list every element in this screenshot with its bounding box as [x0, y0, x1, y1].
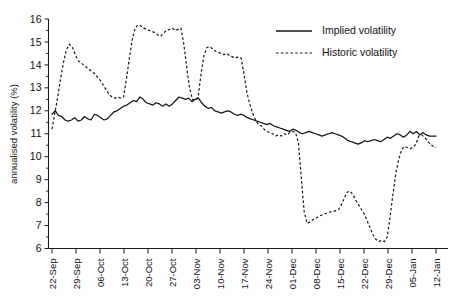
y-tick-label: 14	[30, 59, 42, 71]
x-axis: 22-Sep29-Sep06-Oct13-Oct20-Oct27-Oct03-N…	[47, 249, 449, 290]
y-axis-title-group: annualised volatility (%)	[8, 84, 19, 184]
x-tick-label: 13-Oct	[119, 258, 130, 287]
x-tick-label: 08-Dec	[311, 258, 322, 289]
y-tick-marks	[45, 19, 49, 249]
y-axis-title: annualised volatility (%)	[8, 84, 19, 184]
x-tick-label: 06-Oct	[95, 258, 106, 287]
y-tick-label: 6	[36, 242, 42, 254]
legend-label-historic-volatility: Historic volatility	[322, 46, 398, 58]
y-tick-label: 13	[30, 81, 42, 93]
x-tick-label: 24-Nov	[263, 258, 274, 289]
legend-label-implied-volatility: Implied volatility	[322, 24, 397, 36]
x-tick-label: 22-Sep	[47, 259, 58, 290]
y-tick-label: 8	[36, 196, 42, 208]
x-tick-label: 01-Dec	[287, 258, 298, 289]
y-tick-label: 7	[36, 219, 42, 231]
x-tick-label: 03-Nov	[191, 258, 202, 289]
volatility-chart: annualised volatility (%) 67891011121314…	[0, 0, 452, 299]
y-tick-labels: 678910111213141516	[30, 13, 42, 255]
x-tick-label: 29-Sep	[71, 259, 82, 290]
x-tick-label: 20-Oct	[143, 258, 154, 287]
y-tick-label: 16	[30, 13, 42, 25]
y-axis: 678910111213141516	[30, 13, 49, 255]
x-tick-label: 27-Oct	[167, 258, 178, 287]
x-tick-label: 17-Nov	[239, 258, 250, 289]
y-tick-label: 11	[31, 127, 42, 139]
y-tick-label: 10	[30, 150, 42, 162]
y-tick-label: 9	[36, 173, 42, 185]
chart-legend: Implied volatility Historic volatility	[276, 24, 398, 58]
legend-item-historic-volatility: Historic volatility	[276, 46, 398, 58]
x-tick-label: 10-Nov	[215, 258, 226, 289]
x-tick-marks	[52, 249, 436, 254]
y-tick-label: 12	[30, 104, 42, 116]
x-tick-label: 05-Jan	[407, 259, 418, 288]
legend-item-implied-volatility: Implied volatility	[276, 24, 397, 36]
x-tick-label: 15-Dec	[335, 258, 346, 289]
x-tick-label: 22-Dec	[359, 258, 370, 289]
x-tick-label: 12-Jan	[431, 259, 442, 288]
chart-canvas: annualised volatility (%) 67891011121314…	[0, 0, 452, 299]
x-tick-label: 29-Dec	[383, 258, 394, 289]
series-line-implied-volatility	[52, 97, 436, 144]
x-tick-labels: 22-Sep29-Sep06-Oct13-Oct20-Oct27-Oct03-N…	[47, 258, 442, 289]
y-tick-label: 15	[30, 36, 42, 48]
